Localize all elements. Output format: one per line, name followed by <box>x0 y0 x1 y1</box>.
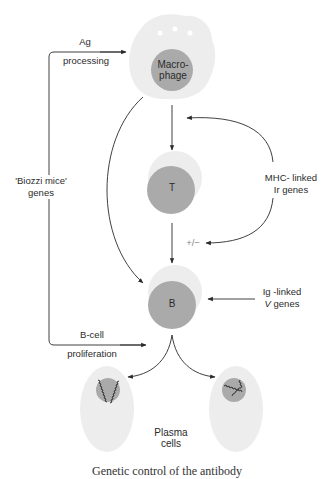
macrophage-cell <box>129 14 215 99</box>
biozzi-genes-label: 'Biozzi mice' genes <box>8 175 74 199</box>
b-cell <box>148 265 202 329</box>
macrophage-label-line1: Macro- <box>148 59 198 70</box>
plus-minus-label: +/− <box>181 237 205 249</box>
ig-line2: V genes <box>256 298 308 310</box>
ig-linked-v-genes-label: Ig -linked V genes <box>256 286 308 310</box>
t-cell-label: T <box>160 182 184 193</box>
plasma-label-line1: Plasma <box>146 427 196 438</box>
arrow-macrophage-to-b <box>107 97 143 283</box>
b-cell-proliferation-label-line2: proliferation <box>56 348 128 360</box>
b-cell-proliferation-label-line1: B-cell <box>66 329 118 341</box>
ig-genes-text: genes <box>274 298 300 309</box>
macrophage-label-line2: phage <box>148 70 198 81</box>
arrow-mhc-to-macrophage-t <box>187 118 273 162</box>
arrow-mhc-to-plus-minus <box>206 198 273 243</box>
mhc-linked-ir-genes-label: MHC- linked Ir genes <box>256 172 326 196</box>
plasma-cells-label: Plasma cells <box>146 427 196 449</box>
macrophage-label: Macro- phage <box>148 59 198 81</box>
plasma-cell-left <box>80 366 134 452</box>
b-cell-label: B <box>160 298 184 309</box>
plasma-label-line2: cells <box>146 438 196 449</box>
biozzi-line2: genes <box>8 187 74 199</box>
plasma-cell-right <box>209 366 263 452</box>
figure-caption: Genetic control of the antibody <box>0 464 334 479</box>
arrow-b-to-plasma-right <box>172 335 215 377</box>
arrow-b-to-plasma-left <box>128 335 172 377</box>
biozzi-line1: 'Biozzi mice' <box>8 175 74 187</box>
mhc-line1: MHC- linked <box>256 172 326 184</box>
ig-line1: Ig -linked <box>256 286 308 298</box>
ig-v-italic: V <box>265 298 271 309</box>
ag-label: Ag <box>70 36 100 48</box>
processing-label: processing <box>56 55 116 67</box>
mhc-line2: Ir genes <box>256 184 326 196</box>
